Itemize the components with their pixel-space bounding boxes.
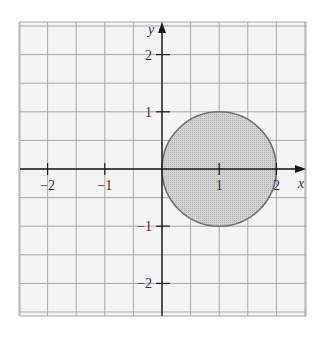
y-axis-label: y [146,22,155,37]
y-tick-label: 1 [145,105,152,120]
y-tick-label: 2 [145,48,152,63]
x-tick-label: −2 [40,178,55,193]
y-tick-label: −1 [137,219,152,234]
x-axis-label: x [297,176,305,191]
x-tick-label: 2 [273,178,280,193]
x-tick-label: 1 [216,178,223,193]
x-tick-label: −1 [97,178,112,193]
y-tick-label: −2 [137,276,152,291]
circle-region-plot: −2−11221−1−2 x y [0,0,325,346]
